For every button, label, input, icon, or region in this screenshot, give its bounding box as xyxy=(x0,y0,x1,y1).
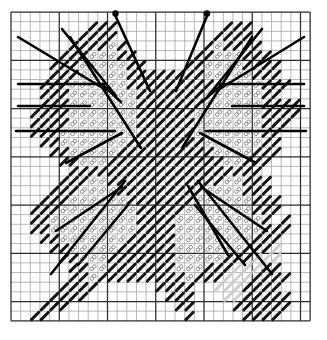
antenna-knob xyxy=(112,10,118,16)
antenna-knob xyxy=(204,10,210,16)
cross-stitch-chart xyxy=(0,0,327,340)
chart-canvas xyxy=(0,0,327,340)
